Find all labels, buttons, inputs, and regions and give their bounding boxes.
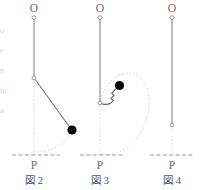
fig2-caption: 図 2 <box>25 175 43 186</box>
fig4-base-label: P <box>169 159 175 171</box>
fig2-pivot-marker <box>32 16 36 20</box>
fig4-pivot-marker <box>170 16 174 20</box>
fig4-caption: 図 4 <box>163 175 182 186</box>
figure-3-group: O P 図 3 <box>80 2 149 186</box>
figure-4-group: O P 図 4 <box>150 2 194 186</box>
fig3-base-label: P <box>97 159 103 171</box>
fig4-joint-marker <box>170 123 174 127</box>
fig2-swing-arc <box>34 130 73 152</box>
fig3-wavy-rod <box>101 87 119 104</box>
fig3-caption: 図 3 <box>91 175 109 186</box>
figure-panel: O P 図 2 O P 図 3 <box>0 0 199 190</box>
fig3-pivot-label: O <box>96 2 104 14</box>
fig3-joint-marker <box>98 101 102 105</box>
figures-svg: O P 図 2 O P 図 3 <box>0 0 199 190</box>
fig2-base-label: P <box>31 159 37 171</box>
fig3-bob <box>115 81 124 90</box>
fig3-swing-arc <box>100 73 149 154</box>
fig2-pivot-label: O <box>30 2 38 14</box>
fig4-pivot-label: O <box>168 2 176 14</box>
fig3-pivot-marker <box>98 16 102 20</box>
fig2-bob <box>67 125 76 134</box>
fig2-lower-rod <box>35 79 72 130</box>
figure-2-group: O P 図 2 <box>12 2 77 186</box>
fig2-joint-marker <box>32 76 36 80</box>
